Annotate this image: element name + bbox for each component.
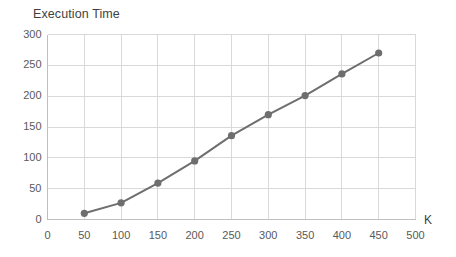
plot-area	[0, 0, 456, 257]
data-point-marker	[265, 111, 272, 118]
data-point-marker	[81, 210, 88, 217]
data-point-marker	[154, 180, 161, 187]
data-point-marker	[375, 49, 382, 56]
data-point-marker	[191, 157, 198, 164]
data-point-marker	[338, 70, 345, 77]
data-point-marker	[118, 199, 125, 206]
x-axis-title: K	[424, 213, 432, 227]
data-point-marker	[228, 132, 235, 139]
data-point-marker	[302, 92, 309, 99]
grid-lines	[48, 35, 416, 220]
execution-time-chart: Execution Time 050100150200250300 050100…	[0, 0, 456, 257]
